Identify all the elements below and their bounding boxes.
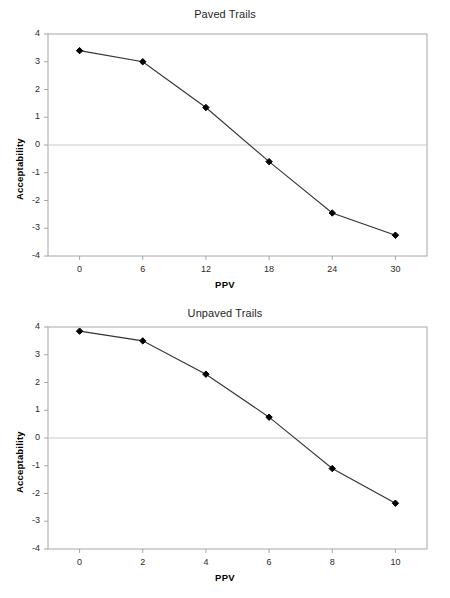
y-tick-label: 1 <box>26 404 40 414</box>
x-tick-label: 8 <box>320 557 344 567</box>
y-tick-label: -3 <box>26 515 40 525</box>
y-tick-label: 3 <box>26 56 40 66</box>
y-tick-label: 4 <box>26 321 40 331</box>
y-tick-label: 0 <box>26 139 40 149</box>
y-tick-label: 4 <box>26 28 40 38</box>
x-tick-label: 0 <box>68 264 92 274</box>
x-tick-label: 30 <box>383 264 407 274</box>
y-tick-label: 2 <box>26 377 40 387</box>
y-tick-label: -4 <box>26 250 40 260</box>
y-tick-label: -1 <box>26 460 40 470</box>
x-tick-label: 0 <box>68 557 92 567</box>
x-tick-label: 6 <box>257 557 281 567</box>
x-tick-label: 10 <box>383 557 407 567</box>
x-tick-label: 4 <box>194 557 218 567</box>
y-tick-label: 3 <box>26 349 40 359</box>
x-tick-label: 2 <box>131 557 155 567</box>
y-tick-label: -3 <box>26 222 40 232</box>
y-tick-label: -4 <box>26 543 40 553</box>
x-tick-label: 24 <box>320 264 344 274</box>
figure-page: Paved Trails Acceptability PPV 43210-1-2… <box>0 0 450 598</box>
plot-area <box>0 299 450 598</box>
chart-paved-trails: Paved Trails Acceptability PPV 43210-1-2… <box>0 0 450 299</box>
y-tick-label: 1 <box>26 111 40 121</box>
x-tick-label: 12 <box>194 264 218 274</box>
chart-unpaved-trails: Unpaved Trails Acceptability PPV 43210-1… <box>0 299 450 598</box>
y-tick-label: -2 <box>26 195 40 205</box>
y-tick-label: 0 <box>26 432 40 442</box>
y-tick-label: 2 <box>26 84 40 94</box>
y-tick-label: -2 <box>26 488 40 498</box>
y-tick-label: -1 <box>26 167 40 177</box>
x-tick-label: 6 <box>131 264 155 274</box>
plot-area <box>0 0 450 299</box>
x-tick-label: 18 <box>257 264 281 274</box>
